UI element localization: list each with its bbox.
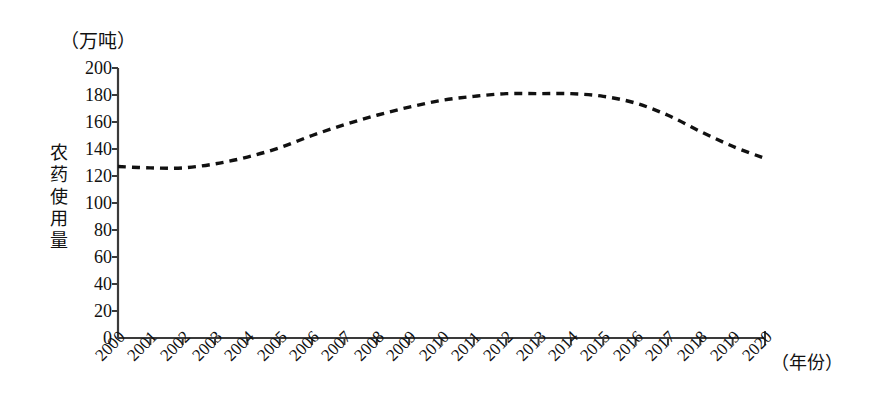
data-series-line [118,93,765,168]
axes-group [112,68,765,345]
x-axis-title: （年份） [771,348,843,374]
chart-canvas: （万吨） 农药使用量 020406080100120140160180200 2… [0,0,882,413]
